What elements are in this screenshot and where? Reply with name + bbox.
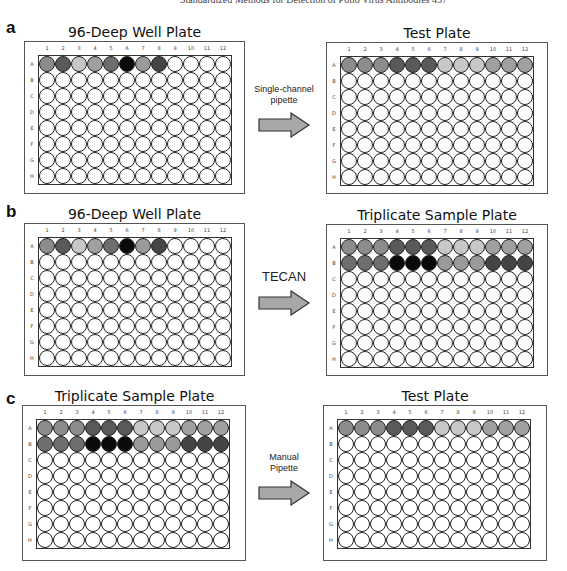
well-E7 bbox=[437, 303, 453, 319]
well-E3 bbox=[370, 484, 386, 500]
well-B5 bbox=[405, 73, 421, 89]
well-B4 bbox=[85, 436, 101, 452]
well-A4 bbox=[87, 56, 103, 72]
well-G8 bbox=[151, 152, 167, 168]
row-label: A bbox=[327, 420, 335, 436]
column-label: 12 bbox=[213, 409, 229, 415]
well-C8 bbox=[151, 88, 167, 104]
well-H4 bbox=[87, 350, 103, 366]
well-C9 bbox=[167, 88, 183, 104]
well-G12 bbox=[517, 153, 533, 169]
well-E7 bbox=[133, 484, 149, 500]
well-G12 bbox=[514, 516, 530, 532]
well-B8 bbox=[151, 254, 167, 270]
well-C6 bbox=[117, 452, 133, 468]
well-F2 bbox=[357, 137, 373, 153]
column-label: 11 bbox=[498, 409, 514, 415]
well-E3 bbox=[373, 121, 389, 137]
well-F3 bbox=[69, 500, 85, 516]
well-G8 bbox=[149, 516, 165, 532]
well-C4 bbox=[85, 452, 101, 468]
well-H2 bbox=[357, 169, 373, 185]
well-F9 bbox=[466, 500, 482, 516]
column-label: 12 bbox=[215, 227, 231, 233]
well-F3 bbox=[71, 136, 87, 152]
well-G10 bbox=[485, 335, 501, 351]
well-E11 bbox=[498, 484, 514, 500]
well-D3 bbox=[370, 468, 386, 484]
well-A1 bbox=[338, 420, 354, 436]
well-C3 bbox=[373, 89, 389, 105]
well-D2 bbox=[55, 286, 71, 302]
well-F10 bbox=[485, 319, 501, 335]
plate-title: Test Plate bbox=[326, 25, 548, 41]
well-D2 bbox=[55, 104, 71, 120]
column-label: 3 bbox=[69, 409, 85, 415]
well-D1 bbox=[39, 286, 55, 302]
well-G2 bbox=[357, 153, 373, 169]
well-F4 bbox=[87, 136, 103, 152]
well-H9 bbox=[469, 169, 485, 185]
well-A10 bbox=[183, 56, 199, 72]
well-B3 bbox=[373, 255, 389, 271]
well-D8 bbox=[149, 468, 165, 484]
column-label: 6 bbox=[117, 409, 133, 415]
row-label: F bbox=[28, 136, 36, 152]
well-E12 bbox=[517, 121, 533, 137]
well-H11 bbox=[199, 168, 215, 184]
row-label: H bbox=[28, 350, 36, 366]
well-B12 bbox=[215, 72, 231, 88]
well-C6 bbox=[421, 271, 437, 287]
well-B5 bbox=[103, 254, 119, 270]
well-A5 bbox=[101, 420, 117, 436]
row-label: E bbox=[330, 121, 338, 137]
well-B9 bbox=[167, 72, 183, 88]
column-label: 2 bbox=[357, 46, 373, 52]
well-C5 bbox=[405, 271, 421, 287]
well-E6 bbox=[421, 121, 437, 137]
column-label: 5 bbox=[402, 409, 418, 415]
well-F5 bbox=[101, 500, 117, 516]
well-F7 bbox=[135, 318, 151, 334]
well-A9 bbox=[167, 56, 183, 72]
well-G1 bbox=[37, 516, 53, 532]
well-D5 bbox=[405, 105, 421, 121]
well-B3 bbox=[370, 436, 386, 452]
well-F4 bbox=[386, 500, 402, 516]
page-header: Standardized Methods for Detection of Po… bbox=[180, 0, 447, 5]
row-label: B bbox=[28, 72, 36, 88]
well-A8 bbox=[450, 420, 466, 436]
row-label: D bbox=[330, 287, 338, 303]
well-H11 bbox=[498, 532, 514, 548]
well-G8 bbox=[453, 153, 469, 169]
well-F7 bbox=[135, 136, 151, 152]
well-D6 bbox=[117, 468, 133, 484]
row-label: F bbox=[26, 500, 34, 516]
well-G3 bbox=[71, 152, 87, 168]
row-labels: ABCDEFGH bbox=[28, 56, 36, 184]
row-label: H bbox=[28, 168, 36, 184]
row-labels: ABCDEFGH bbox=[330, 57, 338, 185]
well-E1 bbox=[37, 484, 53, 500]
source-plate: 123456789101112ABCDEFGH bbox=[22, 405, 246, 561]
well-C7 bbox=[437, 271, 453, 287]
well-C1 bbox=[39, 270, 55, 286]
well-H3 bbox=[71, 350, 87, 366]
well-B12 bbox=[215, 254, 231, 270]
well-A4 bbox=[87, 238, 103, 254]
column-label: 3 bbox=[71, 227, 87, 233]
well-E5 bbox=[405, 121, 421, 137]
well-B5 bbox=[402, 436, 418, 452]
well-H10 bbox=[485, 351, 501, 367]
well-F10 bbox=[485, 137, 501, 153]
row-label: F bbox=[330, 137, 338, 153]
well-G10 bbox=[181, 516, 197, 532]
well-E9 bbox=[165, 484, 181, 500]
well-C12 bbox=[517, 271, 533, 287]
well-C5 bbox=[405, 89, 421, 105]
transfer-label: Single-channel pipette bbox=[244, 84, 324, 106]
well-E6 bbox=[119, 120, 135, 136]
well-G11 bbox=[498, 516, 514, 532]
well-F9 bbox=[167, 318, 183, 334]
well-D8 bbox=[450, 468, 466, 484]
